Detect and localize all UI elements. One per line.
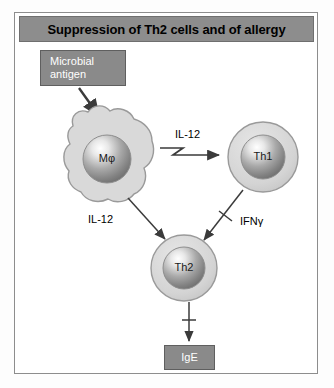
th1-label: Th1: [249, 150, 277, 162]
macrophage-label: Mφ: [93, 152, 121, 164]
edge-label-il12-th2: IL-12: [88, 213, 113, 225]
edge-label-ifng: IFNγ: [240, 215, 263, 227]
arrow-il12-to-th1: [160, 148, 219, 155]
edge-label-il12-th1: IL-12: [175, 128, 200, 140]
arrow-il12-to-th2: [128, 198, 165, 239]
node-ige[interactable]: IgE: [164, 345, 215, 370]
th2-label: Th2: [170, 261, 198, 273]
antigen-label-line2: antigen: [50, 68, 86, 81]
figure-panel: Suppression of Th2 cells and of allergy: [0, 0, 334, 388]
ige-label: IgE: [181, 351, 198, 364]
node-microbial-antigen[interactable]: Microbial antigen: [40, 50, 126, 86]
antigen-label-line1: Microbial: [50, 55, 94, 68]
